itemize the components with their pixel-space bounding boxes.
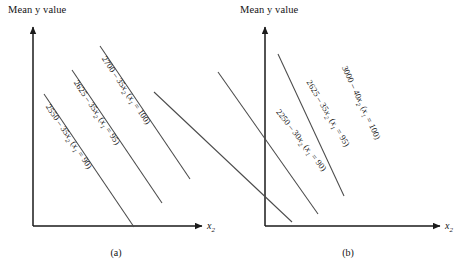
panel-caption-b: (b) xyxy=(232,247,464,258)
x-axis-label: x2 xyxy=(445,220,453,234)
panel-b: Mean y value 3000 – 40x2 (x1 = 100) xyxy=(232,0,464,272)
panel-caption-a: (a) xyxy=(0,247,232,258)
panel-a: Mean y value 2700 – 35x2 (x1 = 100) xyxy=(0,0,232,272)
figure-container: Mean y value 2700 – 35x2 (x1 = 100) xyxy=(0,0,464,272)
x-axis-label: x2 xyxy=(207,220,215,234)
